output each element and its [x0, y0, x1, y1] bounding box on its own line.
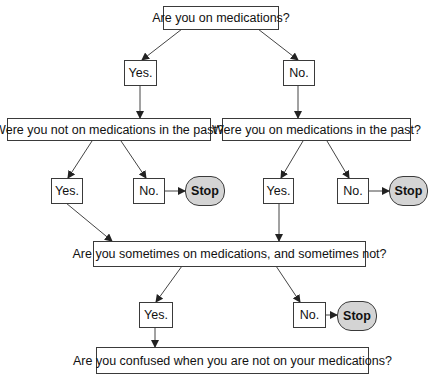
question-not-on-medications-past: Were you not on medications in the past? — [7, 118, 211, 141]
answer-no-not-on-medications-past: No. — [133, 178, 165, 204]
stop-terminal-2: Stop — [389, 176, 428, 206]
answer-no-on-medications-past: No. — [337, 178, 369, 204]
question-confused-off-medications: Are you confused when you are not on you… — [96, 347, 369, 374]
answer-no-sometimes: No. — [293, 302, 326, 328]
answer-yes-on-medications-past: Yes. — [263, 178, 294, 204]
answer-yes-on-medications: Yes. — [124, 60, 157, 86]
answer-yes-not-on-medications-past: Yes. — [51, 178, 83, 204]
answer-no-on-medications: No. — [283, 60, 315, 86]
answer-yes-sometimes: Yes. — [139, 302, 173, 328]
question-on-medications-past: Were you on medications in the past? — [222, 118, 411, 141]
question-sometimes-on-medications: Are you sometimes on medications, and so… — [93, 241, 366, 267]
stop-terminal-1: Stop — [185, 176, 225, 206]
stop-terminal-3: Stop — [337, 301, 377, 331]
question-on-medications: Are you on medications? — [163, 6, 279, 30]
